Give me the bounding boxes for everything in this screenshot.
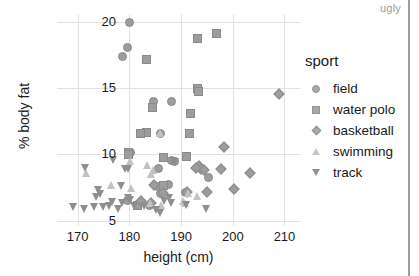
data-point-basketball bbox=[195, 163, 206, 174]
data-point-field bbox=[118, 52, 127, 61]
data-point-field bbox=[164, 180, 173, 189]
data-point-field bbox=[156, 129, 165, 138]
data-point-swimming bbox=[82, 169, 90, 177]
waterpolo-marker-icon bbox=[312, 106, 320, 114]
data-point-basketball bbox=[216, 163, 227, 174]
y-tick-label: 5 bbox=[76, 213, 116, 228]
data-point-waterpolo bbox=[212, 29, 221, 38]
data-point-waterpolo bbox=[186, 109, 195, 118]
data-point-track bbox=[167, 199, 175, 207]
data-point-track bbox=[94, 186, 102, 194]
legend-title: sport bbox=[305, 52, 405, 69]
data-point-field bbox=[204, 173, 213, 182]
legend-key bbox=[305, 169, 327, 176]
data-point-field bbox=[154, 164, 163, 173]
y-tick-label: 15 bbox=[76, 80, 116, 95]
field-marker-icon bbox=[312, 85, 320, 93]
x-tick-label: 200 bbox=[213, 229, 253, 244]
data-point-track bbox=[81, 164, 89, 172]
data-point-basketball bbox=[274, 88, 285, 99]
data-point-basketball bbox=[190, 162, 201, 173]
data-point-basketball bbox=[182, 186, 193, 197]
data-point-track bbox=[117, 182, 125, 190]
x-axis-label: height (cm) bbox=[57, 249, 300, 265]
data-point-track bbox=[182, 201, 190, 209]
swimming-marker-icon bbox=[312, 148, 320, 155]
data-point-track bbox=[90, 203, 98, 211]
legend-label: water polo bbox=[333, 102, 395, 117]
data-point-waterpolo bbox=[142, 128, 151, 137]
legend-rows: fieldwater polobasketballswimmingtrack bbox=[305, 78, 405, 183]
gridline-vertical bbox=[129, 14, 130, 226]
data-point-field bbox=[145, 201, 154, 210]
data-point-swimming bbox=[143, 161, 151, 169]
data-point-track bbox=[108, 198, 116, 206]
gridline-vertical bbox=[284, 14, 285, 226]
x-tick-label: 210 bbox=[264, 229, 304, 244]
data-point-track bbox=[140, 202, 148, 210]
data-point-field bbox=[181, 188, 190, 197]
legend-item-track[interactable]: track bbox=[305, 162, 405, 183]
y-axis-label: % body fat bbox=[16, 46, 32, 186]
data-point-field bbox=[123, 196, 132, 205]
gridline-vertical bbox=[233, 14, 234, 226]
data-point-track bbox=[118, 199, 126, 207]
data-point-waterpolo bbox=[133, 201, 142, 210]
data-point-track bbox=[69, 203, 77, 211]
data-point-basketball bbox=[135, 195, 146, 206]
data-point-field bbox=[170, 157, 179, 166]
legend-key bbox=[305, 127, 327, 134]
data-point-swimming bbox=[107, 181, 115, 189]
data-point-basketball bbox=[157, 187, 168, 198]
data-point-track bbox=[165, 194, 173, 202]
data-point-track bbox=[156, 209, 164, 217]
data-point-waterpolo bbox=[159, 181, 168, 190]
data-point-waterpolo bbox=[182, 152, 191, 161]
legend-label: swimming bbox=[333, 144, 393, 159]
chart-figure: ugly 5101520 170180190200210 height (cm)… bbox=[0, 0, 419, 276]
x-tick-label: 170 bbox=[58, 229, 98, 244]
gridline-vertical bbox=[78, 14, 79, 226]
legend-item-field[interactable]: field bbox=[305, 78, 405, 99]
data-point-field bbox=[167, 97, 176, 106]
data-point-field bbox=[153, 182, 162, 191]
data-point-track bbox=[96, 190, 104, 198]
data-point-field bbox=[156, 189, 165, 198]
data-point-track bbox=[124, 165, 132, 173]
legend-label: track bbox=[333, 165, 362, 180]
data-point-basketball bbox=[201, 186, 212, 197]
y-tick-label: 20 bbox=[76, 14, 116, 29]
data-point-track bbox=[114, 205, 122, 213]
legend-key bbox=[305, 106, 327, 114]
data-point-track bbox=[105, 202, 113, 210]
legend-item-swimming[interactable]: swimming bbox=[305, 141, 405, 162]
data-point-field bbox=[126, 148, 135, 157]
x-tick-label: 190 bbox=[161, 229, 201, 244]
data-point-swimming bbox=[146, 199, 154, 207]
data-point-track bbox=[160, 197, 168, 205]
data-point-swimming bbox=[157, 201, 165, 209]
data-point-basketball bbox=[193, 161, 204, 172]
legend-key bbox=[305, 148, 327, 155]
legend-label: basketball bbox=[333, 123, 394, 138]
data-point-swimming bbox=[184, 189, 192, 197]
data-point-waterpolo bbox=[136, 129, 145, 138]
data-point-track bbox=[152, 206, 160, 214]
watermark-label: ugly bbox=[380, 2, 401, 14]
data-point-track bbox=[124, 194, 132, 202]
data-point-waterpolo bbox=[148, 103, 157, 112]
data-point-track bbox=[99, 203, 107, 211]
data-point-track bbox=[169, 157, 177, 165]
data-point-basketball bbox=[149, 179, 160, 190]
y-tick-label: 10 bbox=[76, 146, 116, 161]
legend-item-basketball[interactable]: basketball bbox=[305, 120, 405, 141]
legend-item-waterpolo[interactable]: water polo bbox=[305, 99, 405, 120]
data-point-waterpolo bbox=[193, 34, 202, 43]
data-point-basketball bbox=[229, 183, 240, 194]
data-point-swimming bbox=[193, 192, 201, 200]
data-point-basketball bbox=[198, 165, 209, 176]
data-point-swimming bbox=[126, 157, 134, 165]
track-marker-icon bbox=[312, 169, 320, 176]
data-point-basketball bbox=[145, 198, 156, 209]
data-point-basketball bbox=[244, 167, 255, 178]
